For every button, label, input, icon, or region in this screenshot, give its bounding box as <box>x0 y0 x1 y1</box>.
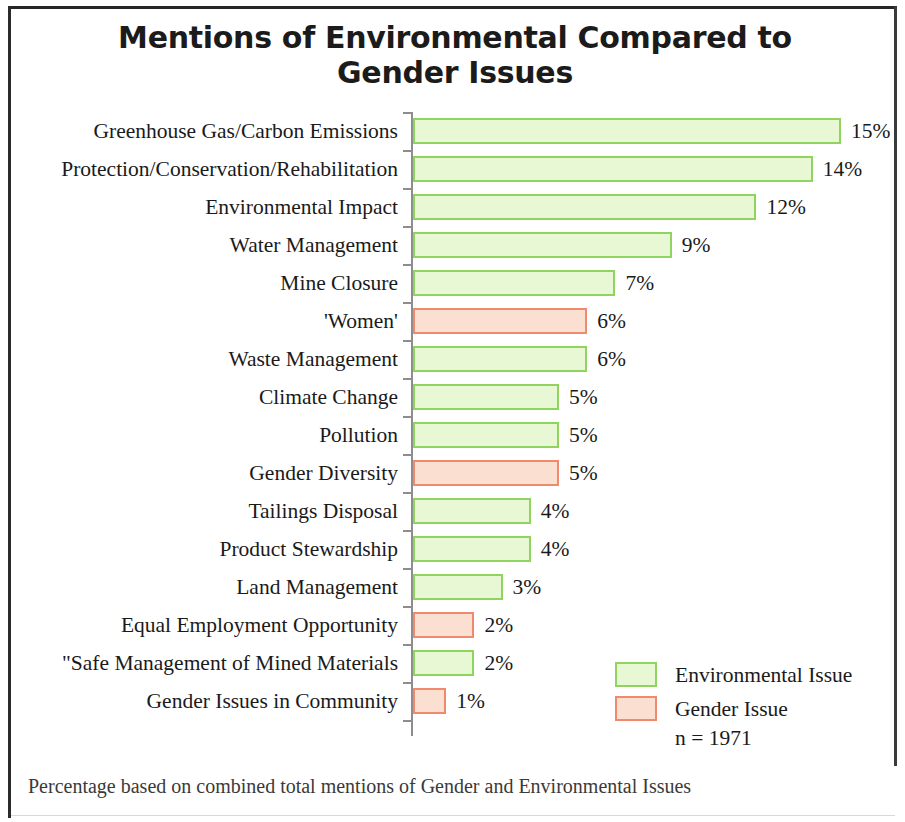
chart-row: Water Management9% <box>0 226 905 264</box>
chart-row: Protection/Conservation/Rehabilitation14… <box>0 150 905 188</box>
bar-value-label: 2% <box>484 610 513 640</box>
bar-environmental <box>413 118 841 144</box>
bar-value-label: 15% <box>851 116 890 146</box>
category-label: Product Stewardship <box>8 530 404 568</box>
chart-row: Equal Employment Opportunity2% <box>0 606 905 644</box>
bar-gender <box>413 308 587 334</box>
bar-value-label: 4% <box>541 534 570 564</box>
bar-value-label: 9% <box>682 230 711 260</box>
category-label: Greenhouse Gas/Carbon Emissions <box>8 112 404 150</box>
bar-value-label: 3% <box>513 572 542 602</box>
bar-gender <box>413 612 474 638</box>
legend-label-gender: Gender Issue <box>675 692 788 726</box>
bar-value-label: 1% <box>456 686 485 716</box>
plot-area: Greenhouse Gas/Carbon Emissions15%Protec… <box>0 112 905 744</box>
category-label: Gender Diversity <box>8 454 404 492</box>
chart-page: Mentions of Environmental Compared to Ge… <box>0 0 905 822</box>
bar-environmental <box>413 650 474 676</box>
axis-tick <box>403 150 412 152</box>
bar-environmental <box>413 156 813 182</box>
bar-value-label: 2% <box>484 648 513 678</box>
category-label: Climate Change <box>8 378 404 416</box>
bar-value-label: 6% <box>597 306 626 336</box>
chart-footnote: Percentage based on combined total menti… <box>28 775 878 798</box>
bar-gender <box>413 460 559 486</box>
chart-row: Tailings Disposal4% <box>0 492 905 530</box>
axis-tick <box>403 340 412 342</box>
category-label: Waste Management <box>8 340 404 378</box>
category-label: Mine Closure <box>8 264 404 302</box>
axis-tick <box>403 454 412 456</box>
bar-environmental <box>413 232 672 258</box>
bar-value-label: 7% <box>625 268 654 298</box>
chart-legend: Environmental Issue Gender Issue n = 197… <box>615 658 900 726</box>
chart-row: Environmental Impact12% <box>0 188 905 226</box>
axis-tick <box>403 644 412 646</box>
category-label: Pollution <box>8 416 404 454</box>
category-label: Equal Employment Opportunity <box>8 606 404 644</box>
axis-tick <box>403 302 412 304</box>
axis-tick <box>403 112 412 114</box>
axis-tick <box>403 682 412 684</box>
bar-gender <box>413 688 446 714</box>
legend-swatch-environmental-icon <box>615 662 657 687</box>
legend-item-gender: Gender Issue <box>615 692 900 726</box>
bar-environmental <box>413 422 559 448</box>
category-label: 'Women' <box>8 302 404 340</box>
chart-row: Greenhouse Gas/Carbon Emissions15% <box>0 112 905 150</box>
category-label: Environmental Impact <box>8 188 404 226</box>
chart-row: Mine Closure7% <box>0 264 905 302</box>
axis-tick <box>403 606 412 608</box>
bar-value-label: 5% <box>569 382 598 412</box>
bar-environmental <box>413 536 531 562</box>
axis-tick <box>403 264 412 266</box>
bar-environmental <box>413 384 559 410</box>
sample-size-label: n = 1971 <box>675 726 752 751</box>
legend-item-environmental: Environmental Issue <box>615 658 900 692</box>
chart-row: Product Stewardship4% <box>0 530 905 568</box>
chart-row: Waste Management6% <box>0 340 905 378</box>
axis-tick <box>403 530 412 532</box>
chart-row: Land Management3% <box>0 568 905 606</box>
frame-top-rule <box>8 6 897 9</box>
axis-tick <box>403 416 412 418</box>
chart-row: Climate Change5% <box>0 378 905 416</box>
bar-value-label: 12% <box>766 192 805 222</box>
axis-tick <box>403 568 412 570</box>
bar-value-label: 6% <box>597 344 626 374</box>
bar-environmental <box>413 498 531 524</box>
axis-tick <box>403 492 412 494</box>
category-label: "Safe Management of Mined Materials <box>8 644 404 682</box>
bar-environmental <box>413 574 503 600</box>
legend-label-environmental: Environmental Issue <box>675 658 852 692</box>
legend-swatch-gender-icon <box>615 696 657 721</box>
axis-tick <box>403 188 412 190</box>
category-label: Gender Issues in Community <box>8 682 404 720</box>
chart-row: 'Women'6% <box>0 302 905 340</box>
bar-value-label: 4% <box>541 496 570 526</box>
bar-environmental <box>413 346 587 372</box>
axis-tick <box>403 378 412 380</box>
bar-environmental <box>413 270 615 296</box>
chart-row: Gender Diversity5% <box>0 454 905 492</box>
category-label: Protection/Conservation/Rehabilitation <box>8 150 404 188</box>
chart-row: Pollution5% <box>0 416 905 454</box>
bar-value-label: 14% <box>823 154 862 184</box>
axis-tick <box>403 226 412 228</box>
bar-value-label: 5% <box>569 420 598 450</box>
frame-bottom-rule <box>11 815 895 816</box>
category-label: Water Management <box>8 226 404 264</box>
category-label: Land Management <box>8 568 404 606</box>
axis-tick-end <box>403 720 412 722</box>
category-label: Tailings Disposal <box>8 492 404 530</box>
bar-environmental <box>413 194 756 220</box>
bar-value-label: 5% <box>569 458 598 488</box>
chart-title: Mentions of Environmental Compared to Ge… <box>60 20 850 90</box>
